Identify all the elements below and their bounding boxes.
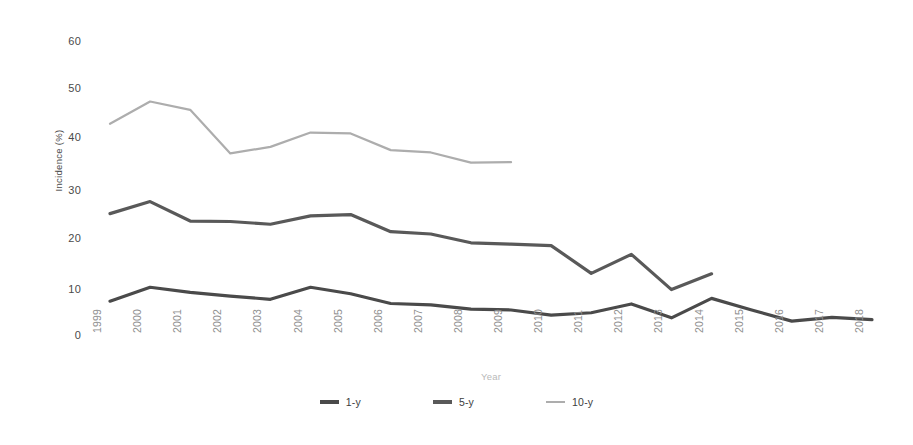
x-tick-label: 2002 (211, 287, 223, 333)
legend-swatch-icon (546, 401, 565, 403)
x-tick-label: 2015 (733, 287, 745, 333)
x-tick-label: 2018 (853, 287, 865, 333)
x-tick-label: 2007 (412, 287, 424, 333)
x-tick-label: 2008 (452, 287, 464, 333)
legend-label: 10-y (572, 396, 593, 408)
legend-item-10y[interactable]: 10-y (546, 396, 593, 408)
x-axis-title: Year (436, 371, 546, 382)
legend-swatch-icon (433, 400, 452, 403)
x-tick-label: 2011 (572, 287, 584, 333)
x-tick-label: 2010 (532, 287, 544, 333)
x-tick-label: 2001 (171, 287, 183, 333)
legend-item-1y[interactable]: 1-y (320, 396, 361, 408)
x-tick-label: 2004 (292, 287, 304, 333)
x-tick-label: 2005 (332, 287, 344, 333)
x-tick-label: 2003 (251, 287, 263, 333)
x-tick-label: 2014 (693, 287, 705, 333)
x-tick-label: 2000 (131, 287, 143, 333)
x-tick-label: 2013 (652, 287, 664, 333)
x-tick-label: 2012 (612, 287, 624, 333)
x-tick-label: 2017 (813, 287, 825, 333)
chart-legend: 1-y 5-y 10-y (0, 396, 913, 408)
legend-label: 1-y (346, 396, 361, 408)
legend-item-5y[interactable]: 5-y (433, 396, 474, 408)
footnote-text (32, 431, 552, 441)
legend-label: 5-y (459, 396, 474, 408)
x-tick-label: 2016 (773, 287, 785, 333)
x-tick-label: 2009 (492, 287, 504, 333)
x-tick-label: 1999 (91, 287, 103, 333)
chart-figure: 60 50 40 30 20 10 0 Incidence (%) 199920… (0, 0, 913, 445)
legend-swatch-icon (320, 400, 339, 403)
x-tick-label: 2006 (372, 287, 384, 333)
